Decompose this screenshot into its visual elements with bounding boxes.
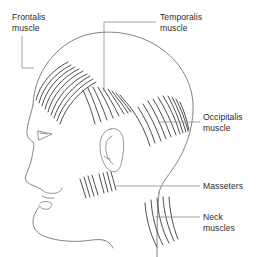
eye-inner-line bbox=[40, 133, 47, 134]
eye-outline bbox=[38, 131, 52, 140]
cranium-outline bbox=[33, 32, 193, 193]
face-profile-outline bbox=[25, 105, 42, 190]
label-occipitalis-muscle: Occipitalis muscle bbox=[203, 112, 261, 133]
label-neck-muscles: Neck muscles bbox=[203, 212, 258, 233]
masseters-hatching bbox=[80, 172, 116, 198]
label-temporalis-muscle: Temporalis muscle bbox=[160, 12, 240, 33]
label-masseters: Masseters bbox=[203, 181, 261, 192]
nose-tip-outline bbox=[42, 188, 62, 193]
facial-features-group bbox=[38, 129, 124, 172]
frontalis-hatching bbox=[36, 62, 96, 124]
upper-lip-outline bbox=[42, 196, 54, 198]
neck-muscles-hatching bbox=[145, 197, 178, 247]
temporalis-hatching bbox=[83, 87, 133, 124]
lips-outline bbox=[39, 202, 52, 210]
occipitalis-hatching bbox=[133, 96, 189, 146]
ear-inner-fold bbox=[106, 136, 113, 164]
chin-jaw-outline bbox=[33, 207, 113, 248]
label-frontalis-muscle: Frontalis muscle bbox=[12, 12, 82, 33]
head-outline-group bbox=[25, 32, 193, 257]
ear-outer-outline bbox=[100, 129, 124, 172]
anatomy-diagram: Frontalis muscle Temporalis muscle Occip… bbox=[0, 0, 261, 257]
frontalis-leader-line bbox=[22, 36, 34, 68]
